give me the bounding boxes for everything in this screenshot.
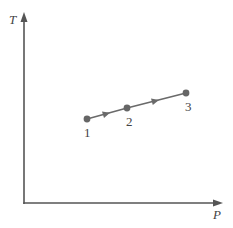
state-point-1 — [84, 116, 91, 123]
y-axis-arrow-icon — [21, 12, 28, 22]
direction-arrow-icon — [102, 112, 110, 118]
x-axis-arrow-icon — [213, 200, 223, 207]
state-point-3 — [183, 90, 190, 97]
tp-diagram: T P 1 2 3 — [0, 0, 233, 228]
state-label-1: 1 — [84, 125, 91, 140]
y-axis-label: T — [9, 12, 17, 27]
state-label-3: 3 — [185, 99, 192, 114]
x-axis-label: P — [212, 207, 221, 222]
process-path — [87, 93, 186, 119]
state-label-2: 2 — [126, 114, 133, 129]
state-point-2 — [124, 105, 131, 112]
